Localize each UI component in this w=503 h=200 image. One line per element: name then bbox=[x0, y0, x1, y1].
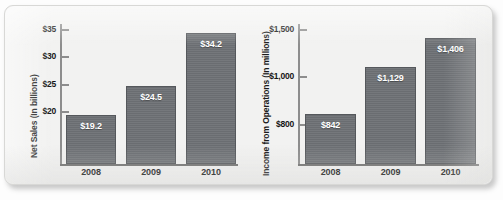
net-sales-tick-label-35: $35 bbox=[42, 24, 56, 34]
net-sales-plot-area: $35 $30 $25 $20 $19.2 $24.5 bbox=[60, 24, 238, 166]
category-label-net-sales-2010: 2010 bbox=[186, 167, 236, 177]
net-sales-tick-label-25: $25 bbox=[42, 79, 56, 89]
income-bars: $842 $1,129 $1,406 bbox=[300, 24, 479, 164]
bar-value-net-sales-2010: $34.2 bbox=[187, 39, 235, 49]
bar-net-sales-2009[interactable]: $24.5 bbox=[126, 86, 176, 164]
chart-income-from-operations: Income from Operations (In millions) $1,… bbox=[251, 6, 492, 184]
income-x-axis-line bbox=[298, 164, 479, 166]
income-plot-area: $1,500 $1,000 $800 $842 $1,129 bbox=[298, 24, 479, 166]
income-y-axis-title: Income from Operations (In millions) bbox=[261, 31, 271, 176]
bar-income-2009[interactable]: $1,129 bbox=[365, 67, 416, 164]
bar-value-net-sales-2009: $24.5 bbox=[127, 92, 175, 102]
income-tick-label-1000: $1,000 bbox=[269, 71, 294, 81]
bar-income-2008[interactable]: $842 bbox=[305, 114, 356, 164]
net-sales-category-labels: 2008 2009 2010 bbox=[62, 167, 238, 183]
net-sales-tick-label-30: $30 bbox=[42, 51, 56, 61]
net-sales-bars: $19.2 $24.5 $34.2 bbox=[62, 24, 238, 164]
income-category-labels: 2008 2009 2010 bbox=[300, 167, 479, 183]
net-sales-tick-label-20: $20 bbox=[42, 106, 56, 116]
income-tick-label-800: $800 bbox=[276, 119, 294, 129]
income-tick-label-1500: $1,500 bbox=[269, 24, 294, 34]
chart-net-sales: Net Sales (In billions) $35 $30 $25 $20 bbox=[5, 6, 251, 184]
category-label-income-2008: 2008 bbox=[305, 167, 356, 177]
bar-value-income-2010: $1,406 bbox=[426, 44, 475, 54]
bar-net-sales-2010[interactable]: $34.2 bbox=[186, 33, 236, 164]
net-sales-y-axis-title: Net Sales (In billions) bbox=[29, 74, 39, 158]
bar-value-income-2008: $842 bbox=[306, 120, 355, 130]
bar-value-income-2009: $1,129 bbox=[366, 73, 415, 83]
bar-income-2010[interactable]: $1,406 bbox=[425, 38, 476, 164]
bar-net-sales-2008[interactable]: $19.2 bbox=[66, 115, 116, 164]
category-label-income-2009: 2009 bbox=[365, 167, 416, 177]
category-label-income-2010: 2010 bbox=[425, 167, 476, 177]
bar-value-net-sales-2008: $19.2 bbox=[67, 121, 115, 131]
category-label-net-sales-2009: 2009 bbox=[126, 167, 176, 177]
category-label-net-sales-2008: 2008 bbox=[66, 167, 116, 177]
figure-page: Net Sales (In billions) $35 $30 $25 $20 bbox=[0, 0, 503, 200]
charts-panel: Net Sales (In billions) $35 $30 $25 $20 bbox=[4, 5, 493, 185]
net-sales-x-axis-line bbox=[60, 164, 238, 166]
